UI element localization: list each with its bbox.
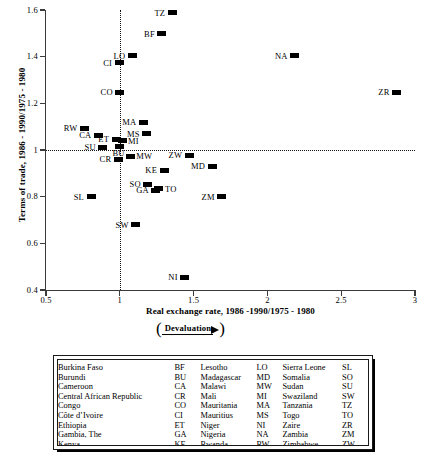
data-point-marker xyxy=(126,154,135,159)
data-point-label: ZM xyxy=(201,192,215,201)
data-point-label: MD xyxy=(191,162,206,171)
devaluation-annotation: ( Devaluation ) xyxy=(0,320,429,342)
x-tick-label: 2.5 xyxy=(324,296,358,305)
legend-country-code: ET xyxy=(174,421,200,431)
legend-country-code: SW xyxy=(342,392,368,402)
data-point-label: MA xyxy=(122,118,137,127)
y-tick-label: 0.4 xyxy=(8,286,38,295)
x-tick-label: 3 xyxy=(398,296,429,305)
legend-country-name: Mali xyxy=(200,392,256,402)
legend-country-name: Central African Republic xyxy=(58,392,174,402)
y-tick xyxy=(40,9,45,10)
legend-country-name: Mauritania xyxy=(200,401,256,411)
legend-country-name: Zambia xyxy=(282,430,342,440)
legend-country-name: Mauritius xyxy=(200,411,256,421)
data-point-label: CI xyxy=(103,58,113,67)
data-point-marker xyxy=(217,194,226,199)
data-point-label: ZW xyxy=(169,151,184,160)
legend-country-code: CO xyxy=(174,401,200,411)
y-tick xyxy=(40,289,45,290)
data-point-label: NA xyxy=(275,51,289,60)
data-point-label: NI xyxy=(168,273,178,282)
legend-country-name: Niger xyxy=(200,421,256,431)
data-point-marker xyxy=(139,120,148,125)
legend-country-name: Gambia, The xyxy=(58,430,174,440)
legend-country-code: KE xyxy=(174,440,200,446)
legend-country-code: ZR xyxy=(342,421,368,431)
data-point-label: CO xyxy=(101,88,114,97)
data-point-label: LO xyxy=(114,51,127,60)
legend-row: BurundiBUMadagascarMDSomaliaSO xyxy=(58,373,368,383)
legend-country-code: TO xyxy=(342,411,368,421)
data-point-label: ZR xyxy=(378,88,390,97)
legend-row: CongoCOMauritaniaMATanzaniaTZ xyxy=(58,401,368,411)
legend-country-name: Burkina Faso xyxy=(58,363,174,373)
legend-country-name: Côte d’Ivoire xyxy=(58,411,174,421)
y-tick xyxy=(40,243,45,244)
legend-country-name: Tanzania xyxy=(282,401,342,411)
data-point-label: CA xyxy=(79,131,92,140)
y-tick xyxy=(40,103,45,104)
y-tick xyxy=(40,56,45,57)
legend-row: Central African RepublicCRMaliMISwazilan… xyxy=(58,392,368,402)
data-point-label: SU xyxy=(85,143,97,152)
data-point-marker xyxy=(185,153,194,158)
legend-country-code: SL xyxy=(342,363,368,373)
x-tick-label: 1.5 xyxy=(177,296,211,305)
data-point-marker xyxy=(157,31,166,36)
legend-country-name: Nigeria xyxy=(200,430,256,440)
legend-row: CameroonCAMalawiMWSudanSU xyxy=(58,382,368,392)
legend-country-name: Burundi xyxy=(58,373,174,383)
legend-country-name: Madagascar xyxy=(200,373,256,383)
legend-country-code: SO xyxy=(342,373,368,383)
legend-country-code: MW xyxy=(256,382,282,392)
legend-row: Côte d’IvoireCIMauritiusMSTogoTO xyxy=(58,411,368,421)
data-point-label: ET xyxy=(98,135,110,144)
legend-country-code: LO xyxy=(256,363,282,373)
legend-country-code: CR xyxy=(174,392,200,402)
data-point-label: TO xyxy=(165,185,178,194)
data-point-marker xyxy=(87,194,96,199)
country-code-legend: Burkina FasoBFLesothoLOSierra LeoneSLBur… xyxy=(53,355,373,450)
data-point-marker xyxy=(180,275,189,280)
data-point-marker xyxy=(115,90,124,95)
data-point-marker xyxy=(131,222,140,227)
legend-country-name: Sierra Leone xyxy=(282,363,342,373)
legend-table: Burkina FasoBFLesothoLOSierra LeoneSLBur… xyxy=(58,363,368,446)
y-axis-title: Terms of trade, 1986 - 1990/1975 - 1980 xyxy=(17,35,27,255)
legend-country-name: Lesotho xyxy=(200,363,256,373)
legend-country-name: Cameroon xyxy=(58,382,174,392)
data-point-marker xyxy=(208,164,217,169)
legend-country-code: ZM xyxy=(342,430,368,440)
x-tick-label: 0.5 xyxy=(29,296,63,305)
data-point-label: KE xyxy=(145,166,158,175)
legend-row: Burkina FasoBFLesothoLOSierra LeoneSL xyxy=(58,363,368,373)
data-point-label: CR xyxy=(100,155,113,164)
y-tick xyxy=(40,149,45,150)
data-point-label: TZ xyxy=(154,9,166,18)
legend-country-name: Ethiopia xyxy=(58,421,174,431)
legend-country-name: Sudan xyxy=(282,382,342,392)
legend-country-code: MD xyxy=(256,373,282,383)
y-tick xyxy=(40,196,45,197)
data-point-marker xyxy=(290,53,299,58)
legend-country-name: Somalia xyxy=(282,373,342,383)
data-point-marker xyxy=(128,53,137,58)
legend-row: KenyaKERwandaRWZimbabweZW xyxy=(58,440,368,446)
legend-country-code: MI xyxy=(256,392,282,402)
legend-country-name: Swaziland xyxy=(282,392,342,402)
legend-country-name: Togo xyxy=(282,411,342,421)
legend-country-code: MS xyxy=(256,411,282,421)
x-tick-label: 2 xyxy=(250,296,284,305)
legend-country-name: Congo xyxy=(58,401,174,411)
legend-country-name: Rwanda xyxy=(200,440,256,446)
data-point-marker xyxy=(154,186,163,191)
legend-country-code: NA xyxy=(256,430,282,440)
legend-country-code: ZW xyxy=(342,440,368,446)
legend-country-code: CA xyxy=(174,382,200,392)
data-point-marker xyxy=(160,168,169,173)
legend-row: EthiopiaETNigerNIZaireZR xyxy=(58,421,368,431)
data-point-marker xyxy=(118,138,127,143)
data-point-label: BF xyxy=(144,30,156,39)
x-tick-label: 1 xyxy=(103,296,137,305)
